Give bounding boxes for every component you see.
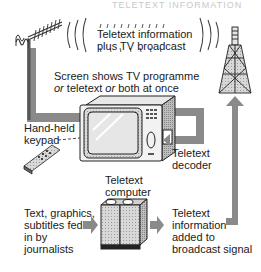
journalists-label-line3: in by	[24, 231, 47, 243]
added-label-line2: information	[172, 219, 226, 231]
journalists-label-line1: Text, graphics,	[24, 207, 95, 219]
keypad-label-line2: keypad	[24, 134, 59, 146]
computer-label-line1: Teletext	[105, 174, 143, 186]
teletext-computer-icon	[101, 199, 147, 249]
decoder-label-line2: decoder	[172, 159, 212, 171]
screen-or-1: or	[54, 82, 64, 94]
computer-label-line2: computer	[105, 186, 151, 198]
decoder-label-line1: Teletext	[172, 147, 210, 159]
faded-header: TELETEXT INFORMATION	[112, 0, 242, 10]
keypad-label-line1: Hand-held	[24, 122, 75, 134]
transmitter-tower-icon	[219, 27, 251, 93]
keypad-icon	[24, 145, 60, 174]
output-arrow	[150, 216, 164, 234]
journalists-label-line2: subtitles fed	[24, 219, 83, 231]
added-label-line4: broadcast signal	[172, 243, 252, 255]
screen-or-2: or	[105, 82, 115, 94]
screen-both: both at once	[115, 82, 179, 94]
added-label-line3: added to	[172, 231, 215, 243]
television-icon	[80, 96, 175, 161]
screen-label-line2: or teletext or both at once	[54, 82, 179, 94]
added-label-line1: Teletext	[172, 207, 210, 219]
broadcast-label-line2: plus TV broadcast	[97, 40, 185, 52]
broadcast-label-line1: Teletext information	[97, 28, 192, 40]
keypad-dashed-link	[58, 138, 80, 140]
up-arrow-to-tower	[226, 96, 244, 225]
journalists-label-line4: journalists	[24, 243, 74, 255]
screen-label-line1: Screen shows TV programme	[54, 70, 199, 82]
screen-teletext: teletext	[64, 82, 106, 94]
